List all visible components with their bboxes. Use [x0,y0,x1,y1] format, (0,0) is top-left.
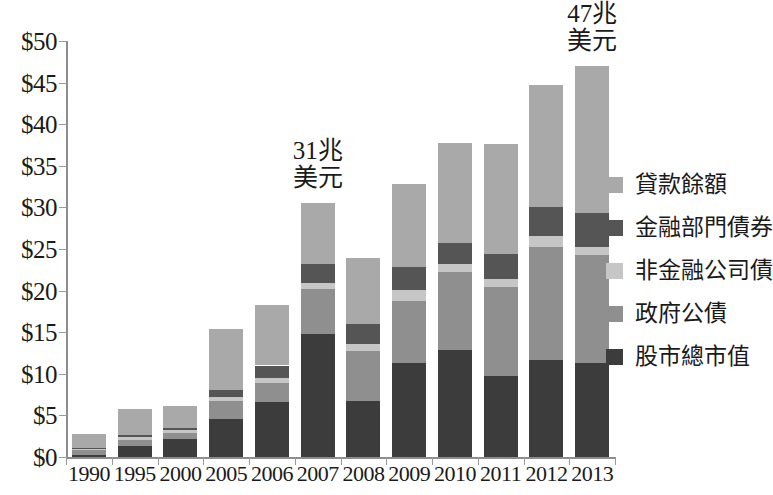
x-tick-mark [112,457,113,465]
bar-2012 [529,85,563,457]
y-tick-mark [59,124,66,125]
bar-2011 [484,144,518,457]
bar-2013 [575,66,609,457]
bar-segment-2012-series-1 [529,247,563,359]
x-tick-label-2006: 2006 [251,463,293,485]
legend-label-2: 非金融公司債 [635,259,773,282]
bar-segment-2005-series-1 [209,401,243,418]
y-tick-label: $5 [33,403,57,428]
x-tick-label-1995: 1995 [114,463,156,485]
bar-segment-2013-series-1 [575,255,609,363]
bar-segment-1995-series-4 [118,409,152,436]
x-tick-label-2010: 2010 [434,463,476,485]
bar-segment-2005-series-0 [209,419,243,457]
x-tick-mark [569,457,570,465]
bar-segment-2010-series-4 [438,143,472,243]
bar-segment-2006-series-1 [255,383,289,402]
y-tick-mark [59,83,66,84]
x-tick-mark [249,457,250,465]
bar-segment-2010-series-2 [438,264,472,272]
y-tick-label: $15 [21,320,57,345]
bar-segment-2000-series-1 [163,433,197,439]
bar-segment-2009-series-3 [392,267,426,289]
bar-2005 [209,329,243,457]
y-tick-label: $20 [21,278,57,303]
x-tick-mark [203,457,204,465]
y-tick-label: $40 [21,112,57,137]
bar-segment-1995-series-3 [118,435,152,437]
bar-segment-1990-series-4 [72,434,106,448]
x-tick-label-2008: 2008 [342,463,384,485]
x-tick-mark [386,457,387,465]
x-tick-mark [341,457,342,465]
bar-segment-2010-series-3 [438,243,472,264]
y-tick-mark [59,41,66,42]
bar-2009 [392,184,426,457]
bar-segment-1990-series-2 [72,449,106,451]
y-tick-mark [59,207,66,208]
x-tick-label-2009: 2009 [388,463,430,485]
bar-segment-1995-series-1 [118,440,152,447]
bar-segment-2008-series-2 [346,344,380,351]
bar-segment-1995-series-0 [118,446,152,457]
legend-swatch-nonfinancial-bonds [606,263,623,279]
x-tick-mark [615,457,616,465]
legend-item-0[interactable]: 貸款餘額 [606,163,773,206]
x-tick-mark [66,457,67,465]
bar-segment-2009-series-4 [392,184,426,267]
bar-segment-2011-series-3 [484,254,518,279]
bar-segment-2010-series-0 [438,350,472,457]
bar-segment-2009-series-2 [392,290,426,301]
bar-segment-2007-series-4 [301,203,335,264]
bar-segment-2008-series-3 [346,324,380,344]
bar-segment-2013-series-3 [575,213,609,246]
y-tick-mark [59,374,66,375]
bar-segment-2009-series-0 [392,363,426,457]
legend-item-4[interactable]: 股市總市值 [606,335,773,378]
x-tick-label-2007: 2007 [297,463,339,485]
bar-segment-2000-series-2 [163,430,197,432]
bar-segment-2013-series-2 [575,247,609,255]
bar-1995 [118,409,152,457]
x-tick-label-1990: 1990 [68,463,110,485]
y-tick-label: $10 [21,361,57,386]
bar-segment-2006-series-4 [255,305,289,366]
bar-2006 [255,305,289,457]
bar-segment-2007-series-0 [301,334,335,457]
x-tick-label-2011: 2011 [480,463,521,485]
bar-2010 [438,143,472,457]
legend-item-3[interactable]: 政府公債 [606,292,773,335]
legend-swatch-financial-bonds [606,220,623,236]
bar-segment-2008-series-0 [346,401,380,457]
legend-label-4: 股市總市值 [635,345,750,368]
x-tick-mark [432,457,433,465]
plot-area: $0$5$10$15$20$25$30$35$40$45$50 [66,41,615,457]
bar-segment-2011-series-0 [484,376,518,457]
bar-segment-2005-series-2 [209,397,243,401]
legend-label-0: 貸款餘額 [635,173,727,196]
x-tick-label-2005: 2005 [205,463,247,485]
y-tick-mark [59,291,66,292]
bar-segment-2012-series-0 [529,360,563,457]
bar-2008 [346,258,380,457]
bar-segment-2000-series-0 [163,439,197,457]
x-tick-label-2012: 2012 [525,463,567,485]
bar-segment-2007-series-2 [301,283,335,289]
bar-segment-2011-series-2 [484,279,518,287]
legend-label-1: 金融部門債券 [635,216,773,239]
legend-item-2[interactable]: 非金融公司債 [606,249,773,292]
y-tick-label: $35 [21,153,57,178]
bar-segment-1995-series-2 [118,437,152,439]
bar-segment-1990-series-0 [72,455,106,457]
bar-segment-2006-series-2 [255,378,289,383]
x-tick-label-2013: 2013 [571,463,613,485]
y-tick-label: $50 [21,29,57,54]
annotation-2013: 47兆 美元 [532,0,652,54]
bar-segment-2008-series-4 [346,258,380,324]
y-tick-label: $0 [33,445,57,470]
bar-segment-2013-series-0 [575,363,609,457]
y-tick-mark [59,166,66,167]
bar-2007 [301,203,335,457]
legend-item-1[interactable]: 金融部門債券 [606,206,773,249]
bar-segment-2008-series-1 [346,351,380,401]
